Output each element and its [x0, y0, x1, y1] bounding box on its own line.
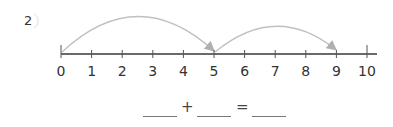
plus-sign: +	[181, 98, 194, 116]
jump-arc-0-to-5	[62, 16, 213, 52]
tick-label-0: 0	[49, 63, 73, 79]
tick-label-2: 2	[110, 63, 134, 79]
jump-arc-5-to-9	[215, 26, 335, 52]
tick-label-8: 8	[294, 63, 318, 79]
tick-label-10: 10	[355, 63, 379, 79]
equals-sign: =	[236, 98, 249, 116]
tick-label-9: 9	[324, 63, 348, 79]
addend-2-blank[interactable]	[197, 116, 231, 117]
tick-label-1: 1	[80, 63, 104, 79]
addend-1-blank[interactable]	[143, 116, 177, 117]
sum-blank[interactable]	[252, 116, 286, 117]
tick-label-5: 5	[202, 63, 226, 79]
tick-label-7: 7	[263, 63, 287, 79]
tick-label-6: 6	[233, 63, 257, 79]
tick-label-3: 3	[141, 63, 165, 79]
tick-label-4: 4	[171, 63, 195, 79]
tick-marks	[61, 45, 367, 58]
equation: + =	[0, 98, 393, 124]
